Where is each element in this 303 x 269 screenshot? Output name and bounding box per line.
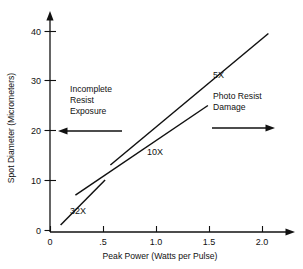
series-line-10x: [75, 106, 208, 196]
series-label-10x: 10X: [147, 147, 163, 157]
x-tick-label-2p0: 2.0: [256, 237, 269, 247]
y-tick-label-0: 0: [36, 226, 41, 236]
y-tick-label-20: 20: [31, 126, 41, 136]
annotation-right-line2: Damage: [213, 102, 246, 112]
x-axis-arrowhead: [286, 228, 296, 235]
series-label-32x: 32X: [70, 206, 86, 216]
y-tick-label-10: 10: [31, 176, 41, 186]
y-axis-title: Spot Diameter (Micrometers): [6, 73, 16, 183]
x-tick-label-0: 0: [47, 237, 52, 247]
series-line-32x: [61, 180, 106, 225]
y-tick-label-30: 30: [31, 76, 41, 86]
x-tick-label-1p0: 1.0: [150, 237, 163, 247]
series-label-5x: 5X: [213, 70, 224, 80]
x-tick-label-0p5: .5: [99, 237, 107, 247]
annotation-left-line3: Exposure: [70, 106, 107, 116]
annotation-left-arrowhead: [58, 127, 68, 134]
y-axis-arrowhead: [46, 11, 53, 21]
x-tick-label-1p5: 1.5: [203, 237, 216, 247]
chart-plot-area: 0 10 20 30 40 0 .5 1.0 1.5 2.0 Peak Powe…: [0, 0, 303, 269]
annotation-left-line2: Resist: [70, 95, 94, 105]
x-axis-title: Peak Power (Watts per Pulse): [103, 251, 218, 261]
annotation-left-line1: Incomplete: [70, 84, 112, 94]
y-tick-label-40: 40: [31, 27, 41, 37]
chart-figure: 0 10 20 30 40 0 .5 1.0 1.5 2.0 Peak Powe…: [0, 0, 303, 269]
annotation-right-line1: Photo Resist: [213, 91, 262, 101]
annotation-right-arrowhead: [266, 124, 276, 131]
